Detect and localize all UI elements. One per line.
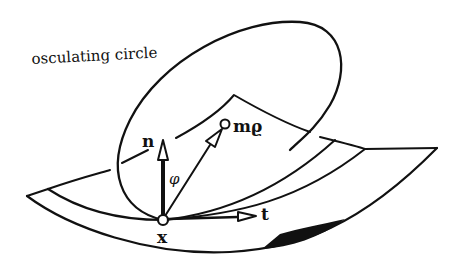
normal-label: n — [142, 133, 154, 150]
center-arrowhead-icon — [206, 129, 222, 147]
surface-shadow — [262, 219, 345, 249]
point-label: x — [157, 229, 167, 246]
point-x-icon — [158, 215, 168, 225]
surface-right-edge — [320, 137, 437, 149]
tangent-label: t — [261, 206, 269, 223]
center-label: mϱ — [233, 118, 262, 135]
surface-bottom-edge — [27, 148, 437, 252]
center-point-icon — [221, 120, 230, 129]
hidden-curve-left — [122, 150, 148, 163]
tangent-arrowhead-icon — [238, 212, 256, 221]
normal-arrowhead-icon — [158, 140, 168, 160]
angle-label: φ — [169, 172, 180, 187]
surface-inner-curve-left — [48, 189, 163, 220]
surface-left-edge — [27, 170, 110, 196]
osculating-circle-diagram: osculating circle n mϱ t x φ — [0, 0, 456, 269]
diagram-graphics — [0, 0, 456, 269]
